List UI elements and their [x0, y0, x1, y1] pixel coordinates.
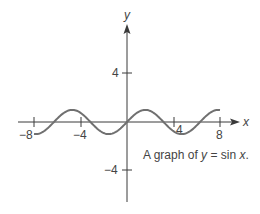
x-tick-label-8: 8: [216, 128, 223, 142]
y-tick-label-minus4: −4: [104, 163, 118, 177]
y-tick-label-4: 4: [112, 66, 119, 80]
caption-suffix: .: [245, 148, 248, 162]
x-axis-label: x: [242, 115, 250, 129]
caption-prefix: A graph of: [143, 148, 201, 162]
caption-middle: = sin: [207, 148, 239, 162]
graph-caption: A graph of y = sin x.: [143, 148, 249, 162]
sine-graph: x y −8 −4 4 8 4 −4 A graph of y = sin x.: [0, 0, 260, 214]
x-tick-label-minus8: −8: [19, 128, 33, 142]
y-axis-label: y: [123, 8, 131, 22]
x-tick-label-minus4: −4: [73, 128, 87, 142]
